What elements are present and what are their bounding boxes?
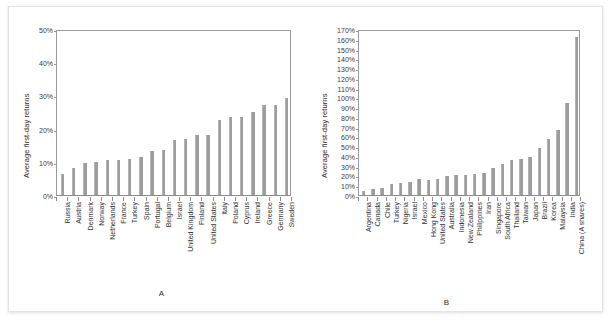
x-tick-mark — [451, 197, 452, 201]
bar — [206, 135, 209, 195]
x-axis-label: Brazil — [541, 202, 548, 220]
y-tick-label: 140% — [337, 56, 355, 63]
y-tick-label: 150% — [337, 46, 355, 53]
y-tick-mark — [356, 51, 359, 52]
bar — [371, 189, 374, 195]
x-axis-label: Italy — [221, 202, 228, 215]
x-axis-label: Mexico — [421, 202, 428, 224]
x-tick-mark — [146, 197, 147, 201]
bar — [491, 168, 494, 195]
x-axis-label: France — [120, 202, 127, 224]
x-axis-label: United States — [439, 202, 446, 244]
y-tick-label: 110% — [338, 85, 355, 92]
y-tick-mark — [356, 90, 359, 91]
x-tick-mark — [190, 197, 191, 201]
y-tick-mark — [356, 99, 359, 100]
plot-area-b — [358, 30, 580, 196]
x-axis-label: Germany — [277, 202, 284, 231]
x-tick-mark — [395, 197, 396, 201]
bar — [229, 117, 232, 195]
bar — [262, 105, 265, 195]
x-axis-label: Portugal — [154, 202, 161, 228]
bar — [285, 98, 288, 195]
x-axis-label: Japan — [532, 202, 539, 221]
bar — [565, 103, 568, 195]
bar — [128, 159, 131, 195]
x-axis-label: Thailand — [513, 202, 520, 229]
x-tick-mark — [257, 197, 258, 201]
x-axis-label: Austria — [75, 202, 82, 224]
y-tick-mark — [356, 148, 359, 149]
bar — [501, 164, 504, 195]
plot-area-a — [56, 30, 291, 196]
x-tick-mark — [213, 197, 214, 201]
x-axis-label: Canada — [374, 202, 381, 227]
x-axis-label: Philippines — [476, 202, 483, 236]
x-axis-label: United Kingdom — [187, 202, 194, 252]
x-tick-mark — [414, 197, 415, 201]
x-tick-mark — [90, 197, 91, 201]
x-axis-label: Iran — [485, 202, 492, 214]
x-axis-label: Korea — [550, 202, 557, 221]
y-tick-label: 60% — [341, 134, 355, 141]
y-axis-ticks-b: 0%10%20%30%40%50%60%70%80%90%100%110%120… — [332, 30, 355, 196]
x-axis-label: Israel — [411, 202, 418, 219]
x-axis-label: Taiwan — [522, 202, 529, 224]
x-axis-label: Cyprus — [243, 202, 250, 224]
x-axis-label: Sweden — [288, 202, 295, 227]
x-tick-mark — [515, 197, 516, 201]
chart-panel-b: Average first-day returns 0%10%20%30%40%… — [306, 6, 603, 306]
bar — [547, 139, 550, 195]
panel-caption-a: A — [13, 289, 310, 298]
bar — [417, 179, 420, 195]
x-axis-label: Hong Kong — [430, 202, 437, 237]
y-tick-mark — [356, 168, 359, 169]
y-tick-label: 160% — [337, 36, 355, 43]
y-tick-label: 70% — [341, 124, 355, 131]
bar — [162, 150, 165, 195]
bar — [72, 168, 75, 195]
bar — [274, 105, 277, 195]
y-tick-mark — [356, 60, 359, 61]
bar — [380, 188, 383, 195]
bar — [427, 180, 430, 195]
y-tick-mark — [356, 31, 359, 32]
x-tick-mark — [67, 197, 68, 201]
bar-series-a — [57, 31, 290, 195]
bar — [251, 112, 254, 195]
x-axis-label: South Africa — [504, 202, 511, 240]
x-tick-mark — [291, 197, 292, 201]
bar — [218, 120, 221, 195]
x-tick-mark — [497, 197, 498, 201]
y-tick-label: 0% — [43, 193, 53, 200]
x-tick-mark — [423, 197, 424, 201]
y-tick-mark — [356, 158, 359, 159]
bar — [408, 182, 411, 195]
x-tick-mark — [246, 197, 247, 201]
y-tick-label: 20% — [39, 126, 53, 133]
y-tick-mark — [356, 138, 359, 139]
x-tick-mark — [358, 197, 359, 201]
bar — [240, 117, 243, 195]
x-tick-mark — [543, 197, 544, 201]
x-tick-mark — [201, 197, 202, 201]
x-tick-mark — [386, 197, 387, 201]
bar — [195, 135, 198, 195]
x-tick-mark — [157, 197, 158, 201]
y-axis-ticks-a: 0%10%20%30%40%50% — [30, 30, 53, 196]
y-tick-mark — [54, 97, 57, 98]
bar — [473, 174, 476, 195]
bar — [464, 175, 467, 195]
x-axis-label: Argentina — [365, 202, 372, 232]
x-tick-mark — [478, 197, 479, 201]
y-tick-label: 80% — [341, 114, 355, 121]
bar — [61, 174, 64, 195]
x-tick-mark — [571, 197, 572, 201]
x-tick-mark — [168, 197, 169, 201]
x-axis-label: India — [569, 202, 576, 217]
y-tick-mark — [356, 129, 359, 130]
x-axis-label: Spain — [143, 202, 150, 220]
x-axis-label: Finland — [198, 202, 205, 225]
x-axis-label: Israel — [176, 202, 183, 219]
x-tick-mark — [367, 197, 368, 201]
